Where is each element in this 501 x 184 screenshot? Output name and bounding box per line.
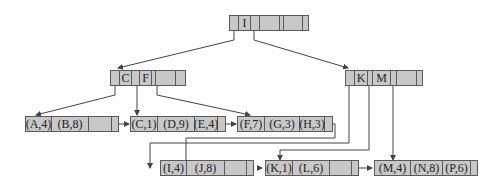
leaf-entry — [225, 161, 247, 175]
leaf-entry: (M,4) — [375, 161, 411, 175]
leaf-entry: (H,3) — [300, 117, 325, 131]
key-cell: I — [239, 16, 252, 30]
internal-node-right: K M — [345, 70, 423, 86]
next-pointer-cell — [471, 161, 477, 175]
leaf-entry: (D,9) — [158, 117, 195, 131]
key-cell: F — [140, 71, 152, 85]
leaf-node: (I,4) (J,8) — [160, 160, 254, 176]
pointer-cell — [176, 71, 181, 85]
leaf-entry: (B,8) — [52, 117, 89, 131]
key-cell: M — [373, 71, 391, 85]
leaf-entry: (G,3) — [265, 117, 300, 131]
pointer-cell — [303, 16, 308, 30]
next-pointer-cell — [218, 117, 225, 131]
next-pointer-cell — [325, 117, 332, 131]
leaf-node: (M,4) (N,8) (P,6) — [374, 160, 478, 176]
pointer-cell — [346, 71, 355, 85]
leaf-node: (F,7) (G,3) (H,3) — [237, 116, 333, 132]
leaf-entry — [330, 161, 352, 175]
leaf-entry: (L,6) — [293, 161, 330, 175]
leaf-entry: (E,4) — [195, 117, 218, 131]
leaf-entry: (F,7) — [238, 117, 265, 131]
next-pointer-cell — [247, 161, 253, 175]
internal-node-left: C F — [110, 70, 186, 86]
key-cell: K — [355, 71, 368, 85]
key-cell — [156, 71, 176, 85]
next-pointer-cell — [352, 161, 358, 175]
leaf-entry: (A,4) — [26, 117, 52, 131]
leaf-entry: (K,1) — [266, 161, 293, 175]
next-pointer-cell — [112, 117, 118, 131]
leaf-entry: (J,8) — [187, 161, 225, 175]
key-cell — [284, 16, 303, 30]
leaf-entry: (P,6) — [443, 161, 471, 175]
key-cell — [397, 71, 417, 85]
pointer-cell — [251, 16, 260, 30]
leaf-node: (C,1) (D,9) (E,4) — [130, 116, 226, 132]
leaf-entry: (C,1) — [131, 117, 158, 131]
root-node: I — [229, 15, 309, 31]
key-cell — [260, 16, 279, 30]
leaf-node: (A,4) (B,8) — [25, 116, 119, 132]
leaf-entry — [89, 117, 112, 131]
leaf-node: (K,1) (L,6) — [265, 160, 359, 176]
pointer-cell — [132, 71, 140, 85]
leaf-entry: (I,4) — [161, 161, 187, 175]
pointer-cell — [230, 16, 239, 30]
leaf-entry: (N,8) — [411, 161, 443, 175]
key-cell: C — [120, 71, 132, 85]
pointer-cell — [111, 71, 120, 85]
pointer-cell — [417, 71, 422, 85]
